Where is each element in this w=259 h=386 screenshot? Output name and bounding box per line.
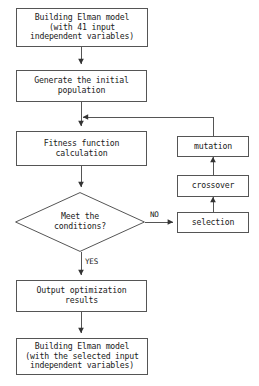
node-meet-conditions-label: Meet the conditions? xyxy=(54,212,106,231)
node-fitness-function: Fitness function calculation xyxy=(16,131,147,166)
node-generate-population-label: Generate the initial population xyxy=(34,76,129,95)
node-fitness-function-label: Fitness function calculation xyxy=(44,139,120,158)
node-mutation-label: mutation xyxy=(194,142,232,152)
flowchart-canvas: Building Elman model (with 41 input inde… xyxy=(0,0,259,386)
node-meet-conditions: Meet the conditions? xyxy=(15,192,145,252)
node-build-model-initial: Building Elman model (with 41 input inde… xyxy=(16,8,148,47)
node-selection-label: selection xyxy=(192,218,235,228)
node-build-model-final-label: Building Elman model (with the selected … xyxy=(25,342,139,371)
node-output-results: Output optimization results xyxy=(16,280,147,312)
node-build-model-initial-label: Building Elman model (with 41 input inde… xyxy=(30,13,134,42)
node-generate-population: Generate the initial population xyxy=(16,70,147,102)
node-crossover: crossover xyxy=(177,175,249,197)
node-build-model-final: Building Elman model (with the selected … xyxy=(16,338,148,375)
node-output-results-label: Output optimization results xyxy=(37,286,127,305)
node-crossover-label: crossover xyxy=(192,181,235,191)
edge-label-yes: YES xyxy=(85,257,98,266)
node-mutation: mutation xyxy=(177,136,249,157)
node-selection: selection xyxy=(177,212,249,233)
edge-label-no: NO xyxy=(150,210,159,219)
